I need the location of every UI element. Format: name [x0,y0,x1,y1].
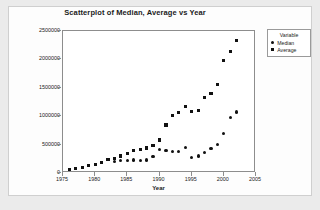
data-point-average [216,83,219,86]
x-axis-tick-label: 1980 [79,176,109,182]
y-axis-tick-label: 2000000 [0,55,60,61]
y-axis-tick-label: 1500000 [0,84,60,90]
data-point-average [164,123,167,126]
y-axis-tick-label: 2500000 [0,27,60,33]
x-axis-tick-label: 2005 [240,176,270,182]
data-point-average [74,167,77,170]
data-point-average [235,39,238,42]
data-point-average [126,152,129,155]
page-title: Scatterplot of Median, Average vs Year [0,8,270,17]
chart-canvas: Scatterplot of Median, Average vs Year S… [0,0,320,210]
x-axis-label: Year [62,185,255,191]
data-point-average [100,161,103,164]
y-axis-tick-mark [57,58,61,59]
data-point-median [190,156,193,159]
data-point-average [68,168,71,171]
legend-item-label: Median [277,40,294,46]
data-point-average [222,59,225,62]
legend: Variable Median Average [267,29,311,57]
median-marker-icon [271,41,274,44]
x-axis-tick-mark [126,172,127,176]
x-axis-tick-label: 1990 [144,176,174,182]
data-point-median [139,159,142,162]
data-point-median [119,159,122,162]
x-axis-tick-label: 1975 [47,176,77,182]
data-points-layer [63,31,254,171]
data-point-average [145,146,148,149]
data-point-median [164,149,167,152]
average-marker-icon [271,48,274,51]
data-point-median [151,155,154,158]
y-axis-tick-mark [57,115,61,116]
data-point-average [229,50,232,53]
data-point-median [177,150,180,153]
data-point-median [158,148,161,151]
data-point-average [119,154,122,157]
legend-item-median[interactable]: Median [271,40,307,46]
data-point-median [209,147,212,150]
data-point-average [197,109,200,112]
data-point-median [235,110,238,113]
data-point-average [209,92,212,95]
x-axis-tick-mark [255,172,256,176]
data-point-average [94,163,97,166]
data-point-median [216,143,219,146]
data-point-median [126,159,129,162]
data-point-median [229,116,232,119]
data-point-median [171,150,174,153]
y-axis-tick-label: 500000 [0,141,60,147]
x-axis-tick-label: 1995 [176,176,206,182]
data-point-average [106,158,109,161]
data-point-average [203,96,206,99]
legend-title: Variable [271,32,307,38]
data-point-average [81,166,84,169]
data-point-median [197,154,200,157]
data-point-average [158,138,161,141]
legend-item-average[interactable]: Average [271,47,307,53]
data-point-average [139,148,142,151]
data-point-median [184,146,187,149]
x-axis-tick-mark [223,172,224,176]
x-axis-tick-label: 2000 [208,176,238,182]
data-point-median [222,132,225,135]
data-point-median [203,151,206,154]
y-axis-tick-mark [57,30,61,31]
x-axis-tick-mark [94,172,95,176]
x-axis-tick-label: 1985 [111,176,141,182]
data-point-average [171,114,174,117]
x-axis-tick-mark [159,172,160,176]
y-axis-tick-label: 0 [0,169,60,175]
data-point-average [87,164,90,167]
plot-area [62,30,255,172]
y-axis-tick-label: 1000000 [0,112,60,118]
data-point-average [190,110,193,113]
y-axis-tick-mark [57,87,61,88]
data-point-median [132,158,135,161]
data-point-average [151,144,154,147]
data-point-average [113,157,116,160]
data-point-average [132,149,135,152]
data-point-average [177,111,180,114]
legend-item-label: Average [277,47,296,53]
data-point-average [184,105,187,108]
x-axis-tick-mark [62,172,63,176]
x-axis-tick-mark [191,172,192,176]
data-point-median [145,158,148,161]
y-axis-tick-mark [57,172,61,173]
y-axis-tick-mark [57,144,61,145]
data-point-median [113,160,116,163]
